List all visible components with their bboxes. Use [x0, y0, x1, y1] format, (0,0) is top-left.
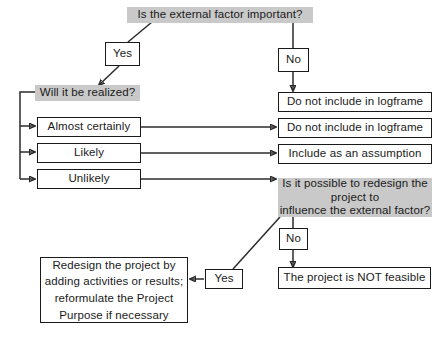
flowchart-canvas: Is the external factor important? Yes No… [0, 0, 441, 337]
node-redesign-question: Is it possible to redesign the project t… [278, 178, 432, 217]
node-realized-question: Will it be realized? [35, 85, 140, 101]
node-assumption: Include as an assumption [278, 144, 432, 164]
node-exclude-1: Do not include in logframe [278, 92, 432, 112]
line-root-to-yes [128, 22, 152, 42]
node-no-top: No [278, 48, 309, 72]
node-likely: Likely [37, 143, 141, 163]
line-redesign-to-yes [233, 217, 280, 269]
node-root-question: Is the external factor important? [127, 7, 313, 23]
node-unlikely: Unlikely [37, 169, 141, 189]
line-yes-to-realized [99, 66, 119, 85]
node-exclude-2: Do not include in logframe [278, 118, 432, 138]
line-realized-trunk [20, 92, 35, 179]
node-not-feasible: The project is NOT feasible [278, 267, 431, 289]
node-no-bottom: No [279, 228, 308, 250]
node-almost-certainly: Almost certainly [37, 117, 141, 137]
node-redesign-action: Redesign the project by adding activitie… [40, 257, 188, 323]
node-yes-bottom: Yes [205, 269, 243, 289]
node-yes-top: Yes [105, 42, 140, 66]
